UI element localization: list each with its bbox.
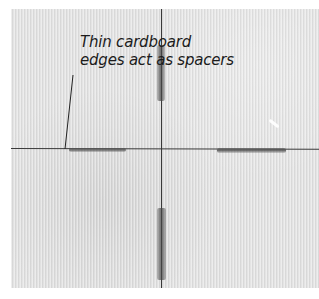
light-glare (268, 119, 279, 129)
cardboard-spacer-bottom (157, 208, 166, 280)
annotation-line-1: Thin cardboard (80, 33, 234, 51)
cardboard-spacer-left (69, 148, 126, 152)
annotation-line-2: edges act as spacers (80, 51, 234, 69)
annotation-label: Thin cardboard edges act as spacers (80, 33, 234, 69)
cardboard-spacer-right (217, 148, 286, 153)
